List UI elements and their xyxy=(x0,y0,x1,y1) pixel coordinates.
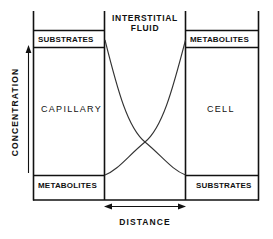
distance-arrow-head-right-icon xyxy=(178,204,186,210)
concentration-arrow-head-icon xyxy=(26,45,32,53)
y-axis-label: CONCENTRATION xyxy=(10,68,20,156)
band-label-capillary-bottom: METABOLITES xyxy=(38,181,97,190)
band-label-capillary-top: SUBSTRATES xyxy=(38,35,94,44)
substrates-gradient-curve xyxy=(105,40,186,175)
y-axis-group: CONCENTRATION xyxy=(10,45,31,173)
distance-arrow-head-left-icon xyxy=(104,204,112,210)
band-label-cell-bottom: SUBSTRATES xyxy=(196,181,252,190)
region-label-cell: CELL xyxy=(207,104,235,114)
diagram-canvas: SUBSTRATES METABOLITES METABOLITES SUBST… xyxy=(0,0,273,239)
x-axis-group: DISTANCE xyxy=(104,204,186,227)
interstitial-label-line1: INTERSTITIAL xyxy=(112,13,178,23)
interstitial-label-line2: FLUID xyxy=(131,23,160,33)
metabolites-gradient-curve xyxy=(105,40,186,175)
concentration-curves xyxy=(105,40,186,175)
region-label-capillary: CAPILLARY xyxy=(41,104,102,114)
region-label-interstitial-fluid: INTERSTITIAL FLUID xyxy=(112,13,178,33)
concentration-distance-diagram: SUBSTRATES METABOLITES METABOLITES SUBST… xyxy=(0,0,273,239)
cell-band-lines xyxy=(185,31,259,176)
x-axis-label: DISTANCE xyxy=(119,217,171,227)
capillary-band-lines xyxy=(33,31,105,176)
band-label-cell-top: METABOLITES xyxy=(190,35,249,44)
